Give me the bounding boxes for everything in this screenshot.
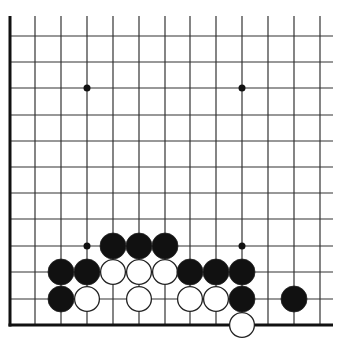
white-stone	[230, 313, 255, 338]
star-point-icon	[84, 243, 91, 250]
black-stone	[203, 259, 229, 285]
white-stone	[153, 260, 178, 285]
black-stone	[229, 286, 255, 312]
white-stone	[75, 287, 100, 312]
white-stone	[178, 287, 203, 312]
black-stone	[229, 259, 255, 285]
white-stone	[127, 260, 152, 285]
white-stone	[101, 260, 126, 285]
black-stone	[74, 259, 100, 285]
black-stone	[48, 286, 74, 312]
white-stone	[127, 287, 152, 312]
star-point-icon	[239, 85, 246, 92]
black-stone	[48, 259, 74, 285]
black-stone	[281, 286, 307, 312]
black-stone	[100, 233, 126, 259]
black-stone	[177, 259, 203, 285]
go-board	[0, 0, 339, 342]
star-point-icon	[84, 85, 91, 92]
black-stone	[152, 233, 178, 259]
star-point-icon	[239, 243, 246, 250]
white-stone	[204, 287, 229, 312]
black-stone	[126, 233, 152, 259]
